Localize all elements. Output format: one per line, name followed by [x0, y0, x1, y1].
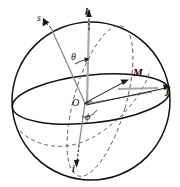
polar-axis-guide	[87, 22, 89, 104]
s-line-label: s	[37, 13, 41, 23]
s-line-arrowhead	[43, 18, 50, 26]
k-axis-label: k	[85, 6, 91, 17]
radius-vector-arrowhead	[120, 80, 129, 86]
origin-label: O	[72, 98, 79, 108]
m-projection-line	[118, 88, 158, 89]
theta-angle-label: θ	[71, 52, 76, 62]
radius-vector-om	[85, 82, 124, 103]
spherical-coordinate-figure: k s θ M j O ϕ i	[0, 0, 180, 187]
s-line-shaft	[51, 28, 85, 103]
phi-angle-label: ϕ	[85, 112, 90, 122]
sphere-diagram-canvas	[0, 0, 180, 187]
inclined-great-circle-dashed	[20, 70, 150, 146]
i-axis-label: i	[72, 164, 75, 174]
point-m-label: M	[133, 67, 143, 78]
j-axis-label: j	[166, 85, 169, 96]
